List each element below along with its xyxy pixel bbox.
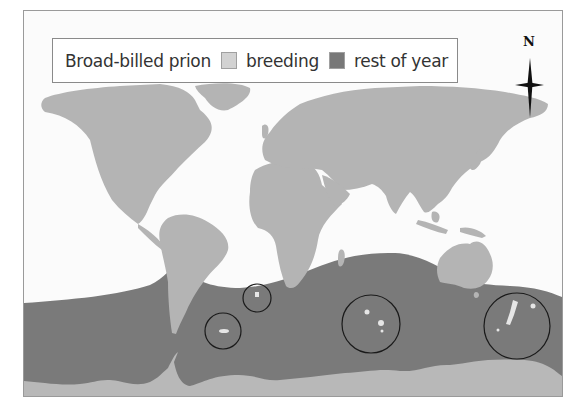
australia xyxy=(437,242,493,289)
new-guinea xyxy=(460,227,486,238)
rest-of-year-swatch xyxy=(329,52,345,69)
legend: Broad-billed prion breeding rest of year xyxy=(52,38,458,83)
tasmania xyxy=(474,292,479,298)
greenland xyxy=(195,83,250,110)
legend-rest-of-year-label: rest of year xyxy=(354,51,448,71)
legend-breeding-label: breeding xyxy=(246,51,319,71)
legend-species-title: Broad-billed prion xyxy=(65,51,211,71)
breeding-swatch xyxy=(221,52,237,69)
indonesia xyxy=(416,212,448,234)
compass-north-label: N xyxy=(523,34,535,49)
north-america xyxy=(41,84,212,224)
